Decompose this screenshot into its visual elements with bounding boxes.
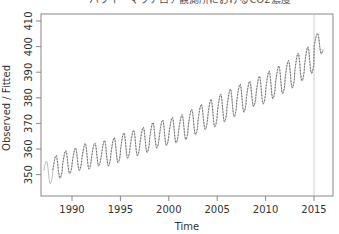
x-tick-label: 2015 <box>301 204 326 215</box>
x-axis: 199019952000200520102015 <box>59 196 326 215</box>
chart-title: ハワイ・マウナロア観測所におけるCO2濃度 <box>89 0 290 5</box>
y-tick-label: 350 <box>23 165 34 184</box>
chart-canvas: ハワイ・マウナロア観測所におけるCO2濃度 350360370380390400… <box>0 0 339 234</box>
y-tick-label: 370 <box>23 114 34 133</box>
y-tick-label: 380 <box>23 88 34 107</box>
x-axis-title: Time <box>174 221 199 232</box>
x-tick-label: 2005 <box>204 204 229 215</box>
y-tick-label: 390 <box>23 63 34 82</box>
plot-border <box>41 14 333 196</box>
y-tick-label: 360 <box>23 139 34 158</box>
y-tick-label: 400 <box>23 37 34 56</box>
plot-frame <box>41 14 333 196</box>
x-tick-label: 1990 <box>59 204 84 215</box>
y-axis-title: Observed / Fitted <box>1 65 12 151</box>
x-tick-label: 2000 <box>156 204 181 215</box>
x-tick-label: 1995 <box>108 204 133 215</box>
y-axis: 350360370380390400410 <box>23 11 41 184</box>
x-tick-label: 2010 <box>253 204 278 215</box>
fitted-series-line <box>53 33 323 178</box>
observed-series-line <box>44 34 323 184</box>
y-tick-label: 410 <box>23 11 34 30</box>
